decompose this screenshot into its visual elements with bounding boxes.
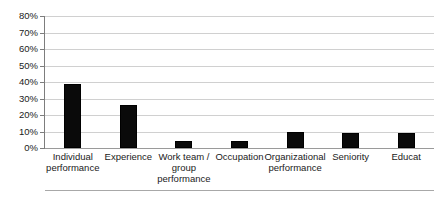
plot-area bbox=[45, 16, 434, 148]
bar bbox=[231, 141, 248, 148]
gridline-80pct bbox=[45, 16, 434, 17]
x-axis-category-labels: IndividualperformanceExperienceWork team… bbox=[45, 151, 434, 191]
y-axis-label-20pct: 20% bbox=[0, 110, 38, 120]
y-tick-mark bbox=[40, 82, 45, 83]
bar bbox=[342, 133, 359, 148]
y-tick-mark bbox=[40, 49, 45, 50]
y-axis-label-0pct: 0% bbox=[0, 143, 38, 153]
gridline-40pct bbox=[45, 82, 434, 83]
bar bbox=[287, 132, 304, 149]
y-axis-label-50pct: 50% bbox=[0, 61, 38, 71]
gridline-60pct bbox=[45, 49, 434, 50]
bar-chart-figure: 0%10%20%30%40%50%60%70%80% Individualper… bbox=[0, 0, 434, 203]
y-tick-mark bbox=[40, 132, 45, 133]
y-axis-label-80pct: 80% bbox=[0, 11, 38, 21]
gridline-10pct bbox=[45, 132, 434, 133]
category-label-line: group bbox=[150, 162, 218, 173]
y-tick-mark bbox=[40, 33, 45, 34]
y-axis-tick-labels: 0%10%20%30%40%50%60%70%80% bbox=[0, 0, 38, 203]
gridline-0pct bbox=[45, 148, 434, 149]
bar bbox=[175, 141, 192, 148]
y-axis-label-40pct: 40% bbox=[0, 77, 38, 87]
gridline-70pct bbox=[45, 33, 434, 34]
y-axis-label-30pct: 30% bbox=[0, 94, 38, 104]
y-tick-mark bbox=[40, 148, 45, 149]
gridline-20pct bbox=[45, 115, 434, 116]
y-axis-label-70pct: 70% bbox=[0, 28, 38, 38]
bar bbox=[64, 84, 81, 148]
gridline-50pct bbox=[45, 66, 434, 67]
category-label: Educat bbox=[372, 151, 434, 162]
category-label-line: performance bbox=[150, 173, 218, 184]
category-label-line: performance bbox=[39, 162, 107, 173]
y-tick-mark bbox=[40, 16, 45, 17]
y-axis-label-10pct: 10% bbox=[0, 127, 38, 137]
footer-divider bbox=[45, 190, 434, 191]
y-axis-label-60pct: 60% bbox=[0, 44, 38, 54]
gridline-30pct bbox=[45, 99, 434, 100]
category-label-line: Educat bbox=[372, 151, 434, 162]
y-tick-mark bbox=[40, 115, 45, 116]
y-tick-mark bbox=[40, 99, 45, 100]
bar bbox=[120, 105, 137, 148]
bar bbox=[398, 133, 415, 148]
y-tick-mark bbox=[40, 66, 45, 67]
category-label-line: performance bbox=[261, 162, 329, 173]
